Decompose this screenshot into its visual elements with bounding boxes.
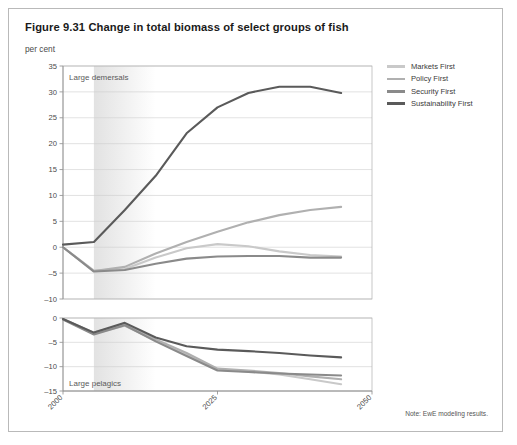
x-tick-label: 2000 [46, 393, 64, 411]
panel-label-top: Large demersals [69, 73, 129, 82]
y-tick-label: –5 [49, 269, 57, 278]
legend-label: Policy First [411, 74, 448, 83]
y-tick-label: 0 [53, 314, 57, 323]
legend-swatch [387, 65, 405, 68]
legend-item-policy-first[interactable]: Policy First [387, 74, 448, 83]
y-tick-label: 0 [53, 243, 57, 252]
legend-item-security-first[interactable]: Security First [387, 87, 455, 96]
y-tick-label: 35 [49, 62, 57, 71]
y-tick-label: 30 [49, 88, 57, 97]
legend-swatch [387, 102, 405, 105]
panel-label-bottom: Large pelagics [69, 379, 121, 388]
y-tick-label: –10 [44, 295, 57, 304]
y-tick-label: –5 [49, 338, 57, 347]
legend-label: Markets First [411, 62, 455, 71]
y-tick-label: 10 [49, 191, 57, 200]
x-tick-label: 2025 [201, 393, 219, 411]
chart-panel-bottom: –15–10–50Large pelagics [44, 314, 372, 396]
y-tick-label: 25 [49, 113, 57, 122]
legend-swatch [387, 78, 405, 81]
legend-label: Sustainability First [411, 99, 473, 108]
x-tick-label: 2050 [355, 393, 373, 411]
x-axis: 200020252050 [46, 391, 373, 411]
figure-note: Note: EwE modeling results. [405, 410, 488, 417]
y-tick-label: –15 [44, 387, 57, 396]
legend-item-markets-first[interactable]: Markets First [387, 62, 455, 71]
y-tick-label: 20 [49, 139, 57, 148]
figure-card: Figure 9.31 Change in total biomass of s… [8, 8, 503, 432]
chart-panel-top: –10–505101520253035Large demersals [44, 62, 372, 304]
y-tick-label: 15 [49, 165, 57, 174]
legend-item-sustainability-first[interactable]: Sustainability First [387, 99, 473, 108]
y-tick-label: 5 [53, 217, 57, 226]
legend-swatch [387, 90, 405, 93]
chart-canvas: –10–505101520253035Large demersals–15–10… [9, 9, 504, 433]
y-tick-label: –10 [44, 362, 57, 371]
legend-label: Security First [411, 87, 455, 96]
transition-shading-band [94, 66, 156, 299]
